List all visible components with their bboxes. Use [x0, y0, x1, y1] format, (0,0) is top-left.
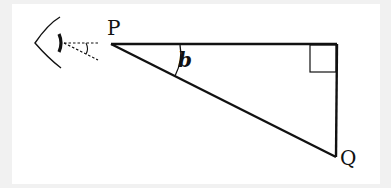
sight-angle-arc [86, 43, 88, 54]
point-p-label: P [107, 16, 120, 40]
right-triangle [111, 44, 337, 157]
right-angle-marker [310, 45, 336, 72]
sight-lines [64, 43, 99, 60]
eye-icon [35, 17, 61, 68]
triangle-diagram [0, 0, 391, 188]
angle-b-label: b [178, 48, 192, 72]
point-q-label: Q [340, 146, 356, 170]
